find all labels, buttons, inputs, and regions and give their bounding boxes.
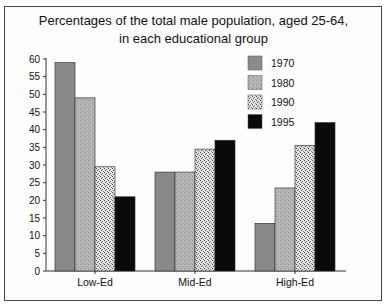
bar-1970-mid-ed (155, 172, 175, 271)
y-tick-label: 0 (34, 266, 40, 277)
bar-1995-mid-ed (215, 140, 235, 271)
legend-label-1990: 1990 (271, 96, 295, 108)
legend-label-1980: 1980 (271, 77, 295, 89)
legend-label-1995: 1995 (271, 116, 295, 128)
bar-1970-high-ed (255, 223, 275, 271)
legend-swatch-1995 (248, 115, 262, 129)
legend-label-1970: 1970 (271, 57, 295, 69)
bar-1990-mid-ed (195, 149, 215, 271)
x-category-label: High-Ed (276, 276, 314, 288)
y-tick-label: 40 (29, 124, 41, 135)
y-tick-label: 25 (29, 177, 41, 188)
y-tick-label: 55 (29, 71, 41, 82)
bar-1980-low-ed (75, 98, 95, 271)
legend-swatch-1980 (248, 76, 262, 90)
bar-1980-high-ed (275, 188, 295, 271)
bar-1980-mid-ed (175, 172, 195, 271)
legend-swatch-1970 (248, 56, 262, 70)
bar-1970-low-ed (55, 63, 75, 271)
y-tick-label: 30 (29, 160, 41, 171)
bar-1990-low-ed (95, 167, 115, 271)
x-axis-labels: Low-EdMid-EdHigh-Ed (77, 276, 314, 288)
bar-chart: 051015202530354045505560 Low-EdMid-EdHig… (0, 0, 387, 306)
y-tick-label: 50 (29, 89, 41, 100)
bar-1995-high-ed (315, 123, 335, 271)
y-tick-label: 35 (29, 142, 41, 153)
x-category-label: Mid-Ed (178, 276, 211, 288)
x-category-label: Low-Ed (77, 276, 113, 288)
y-tick-label: 5 (34, 248, 40, 259)
y-tick-label: 45 (29, 107, 41, 118)
y-tick-label: 20 (29, 195, 41, 206)
legend: 1970198019901995 (248, 56, 295, 129)
y-tick-label: 15 (29, 213, 41, 224)
y-tick-label: 10 (29, 230, 41, 241)
legend-swatch-1990 (248, 95, 262, 109)
bars (55, 63, 335, 271)
y-tick-label: 60 (29, 54, 41, 65)
bar-1990-high-ed (295, 146, 315, 271)
bar-1995-low-ed (115, 197, 135, 271)
